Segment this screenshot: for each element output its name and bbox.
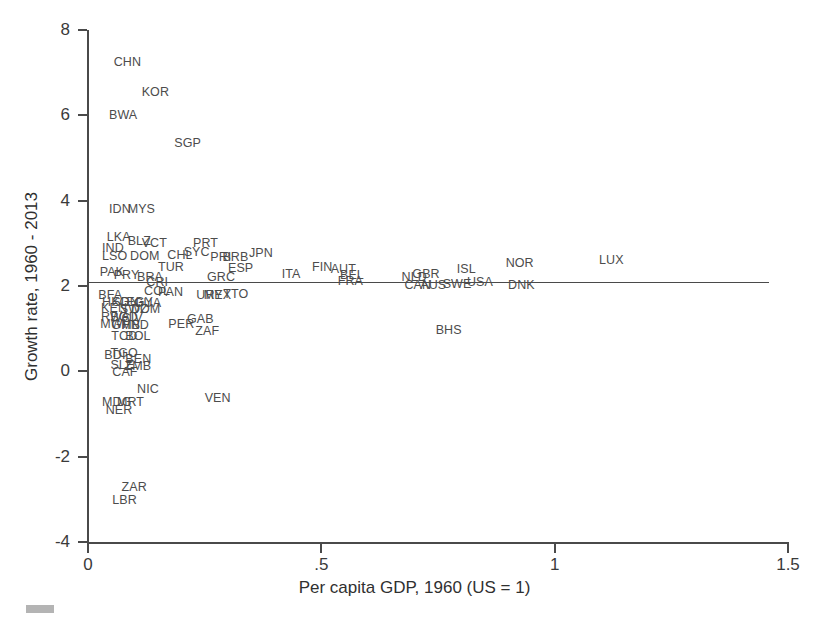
data-point-label: PAN	[158, 286, 183, 299]
y-tick-mark	[78, 29, 87, 31]
data-point-label: BOL	[125, 330, 150, 343]
x-tick-label: 1	[535, 556, 575, 573]
x-tick-label: .5	[301, 556, 341, 573]
data-point-label: DOM	[130, 250, 159, 263]
y-tick-mark	[78, 200, 87, 202]
data-point-label: NOR	[506, 257, 534, 270]
y-tick-label: 2	[44, 277, 70, 294]
data-point-label: BWA	[109, 109, 137, 122]
data-point-label: VEN	[205, 392, 231, 405]
scan-artifact	[26, 605, 54, 613]
data-point-label: NIC	[137, 383, 159, 396]
data-point-label: GRC	[207, 271, 235, 284]
y-tick-label: 8	[44, 21, 70, 38]
data-point-label: FIN	[312, 261, 332, 274]
y-tick-mark	[78, 114, 87, 116]
data-point-label: JPN	[249, 247, 273, 260]
data-point-label: SYC	[184, 246, 210, 259]
data-point-label: ZAF	[195, 325, 219, 338]
data-point-label: PRY	[114, 269, 140, 282]
data-point-label: VCT	[142, 237, 167, 250]
y-tick-mark	[78, 456, 87, 458]
data-point-label: LBR	[112, 494, 137, 507]
x-tick-mark	[87, 544, 89, 553]
data-point-label: CHN	[114, 56, 141, 69]
x-tick-mark	[554, 544, 556, 553]
data-point-label: USA	[467, 276, 493, 289]
x-tick-label: 0	[68, 556, 108, 573]
data-point-label: FRA	[338, 275, 363, 288]
y-axis-title: Growth rate, 1960 - 2013	[22, 191, 42, 380]
data-point-label: SGP	[174, 137, 201, 150]
data-point-label: MYS	[128, 203, 155, 216]
x-tick-mark	[320, 544, 322, 553]
data-point-label: LSO	[102, 250, 127, 263]
data-point-label: CAF	[112, 366, 137, 379]
data-point-labels: CHNKORBWASGPIDNMYSLKABLZVCTINDPRTLSODOMC…	[88, 30, 788, 542]
data-point-label: ITA	[282, 268, 301, 281]
y-tick-mark	[78, 541, 87, 543]
y-tick-label: 4	[44, 192, 70, 209]
data-point-label: ISL	[457, 263, 476, 276]
y-tick-mark	[78, 285, 87, 287]
x-axis-title: Per capita GDP, 1960 (US = 1)	[0, 578, 829, 598]
data-point-label: ZAR	[122, 481, 147, 494]
x-tick-label: 1.5	[768, 556, 808, 573]
y-tick-label: -2	[44, 448, 70, 465]
scatter-chart: -4-202468 0.511.5 CHNKORBWASGPIDNMYSLKAB…	[0, 0, 829, 629]
data-point-label: BHS	[436, 324, 462, 337]
x-axis-line	[87, 542, 789, 544]
y-tick-mark	[78, 370, 87, 372]
y-tick-label: 0	[44, 362, 70, 379]
data-point-label: DNK	[508, 279, 535, 292]
data-point-label: NER	[106, 404, 133, 417]
x-tick-mark	[787, 544, 789, 553]
data-point-label: KOR	[142, 86, 169, 99]
data-point-label: LUX	[599, 254, 624, 267]
data-point-label: TTO	[223, 288, 248, 301]
y-tick-label: 6	[44, 106, 70, 123]
y-tick-label: -4	[44, 533, 70, 550]
